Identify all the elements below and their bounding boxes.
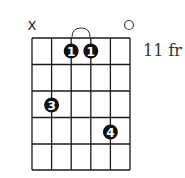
open-string-icon (125, 21, 134, 30)
barre-arc (72, 28, 90, 37)
finger-dot: 1 (64, 44, 79, 59)
fret-position-label: 11 fr (143, 41, 182, 60)
svg-text:1: 1 (67, 45, 75, 59)
muted-string-marker: X (28, 18, 37, 33)
finger-dot: 4 (103, 125, 118, 140)
finger-dot: 3 (44, 98, 59, 113)
svg-text:3: 3 (47, 99, 55, 113)
chord-diagram: X 11 fr 1 1 3 4 (0, 0, 185, 178)
finger-dot: 1 (83, 44, 98, 59)
svg-text:4: 4 (106, 126, 114, 140)
svg-text:1: 1 (87, 45, 95, 59)
